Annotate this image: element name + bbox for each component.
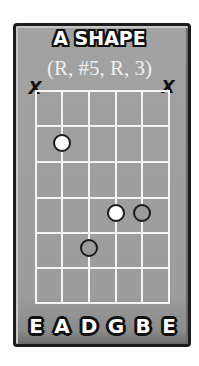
fret-line-1 xyxy=(35,125,170,127)
finger-dot-g-string-fret-4 xyxy=(107,204,125,222)
fret-line-6 xyxy=(35,302,170,304)
string-label-b: B xyxy=(135,313,150,339)
fret-line-4 xyxy=(35,232,170,234)
fret-line-5 xyxy=(35,267,170,269)
string-label-low-e: E xyxy=(29,313,43,339)
diagram-title: A SHAPE xyxy=(0,27,199,49)
finger-dot-a-string-fret-2 xyxy=(53,134,71,152)
string-label-d: D xyxy=(81,313,98,339)
string-label-a: A xyxy=(54,313,69,339)
string-line-6 xyxy=(168,90,170,304)
fretboard-grid xyxy=(35,90,168,302)
string-label-g: G xyxy=(108,313,124,339)
string-line-1 xyxy=(35,90,37,304)
finger-dot-d-string-fret-5 xyxy=(80,239,98,257)
string-labels: E A D G B E xyxy=(0,313,199,341)
string-line-4 xyxy=(115,90,117,304)
fret-line-0 xyxy=(35,90,170,92)
string-line-3 xyxy=(88,90,90,304)
string-label-high-e: E xyxy=(162,313,176,339)
fret-line-3 xyxy=(35,197,170,199)
string-line-2 xyxy=(61,90,63,304)
string-line-5 xyxy=(141,90,143,304)
fret-line-2 xyxy=(35,161,170,163)
finger-dot-b-string-fret-4 xyxy=(133,204,151,222)
